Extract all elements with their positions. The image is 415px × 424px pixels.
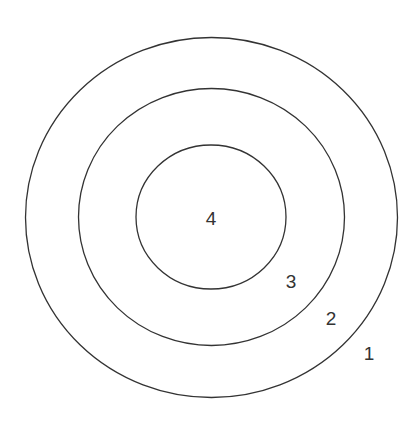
ring-label-1: 1 xyxy=(364,343,375,364)
diagram-canvas: 4 3 2 1 xyxy=(0,0,415,424)
concentric-circles-diagram: 4 3 2 1 xyxy=(0,0,415,424)
ring-label-3: 3 xyxy=(286,271,297,292)
ring-label-4: 4 xyxy=(206,208,217,229)
ring-label-2: 2 xyxy=(326,308,337,329)
